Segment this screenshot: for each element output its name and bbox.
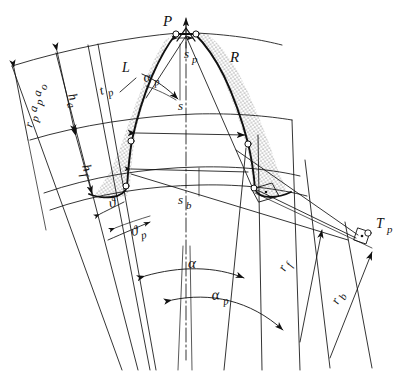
label-alpha-p-group: α p	[211, 285, 230, 308]
radial-line-right-3	[292, 120, 300, 370]
label-alpha-p-sub: p	[222, 294, 230, 307]
label-sp-sub: p	[191, 53, 198, 65]
tip-circle-arc	[12, 33, 178, 66]
dim-ha	[57, 51, 75, 133]
label-rb-group: r b	[327, 288, 349, 308]
label-ha: h	[65, 91, 81, 102]
label-ha-group: h a	[62, 91, 83, 110]
leader-tp	[120, 78, 136, 92]
diagram-canvas: P L R s p s s b h a h f t p α p r p a p …	[0, 0, 417, 376]
label-rp-ap-ao-group: r p a p a o	[21, 81, 49, 130]
tangent-point-Tp	[354, 228, 371, 244]
label-alpha-p: α	[211, 286, 222, 303]
label-s: s	[178, 98, 183, 113]
pressure-line-right	[131, 174, 348, 240]
radial-line-outer-right	[345, 222, 372, 368]
label-Tp: T	[376, 216, 385, 231]
gear-tooth-diagram: P L R s p s s b h a h f t p α p r p a p …	[0, 0, 417, 376]
radial-line-right-4	[305, 160, 330, 368]
label-tp-sub: p	[105, 85, 115, 99]
label-Tp-group: T p	[376, 216, 393, 235]
label-R: R	[229, 49, 239, 65]
label-hf: h	[79, 162, 95, 173]
label-sb: s	[178, 192, 183, 207]
label-sp: s	[184, 46, 189, 61]
tangent-line-Tp-2	[255, 189, 356, 238]
label-L: L	[121, 60, 130, 75]
label-ha-sub: a	[65, 101, 78, 110]
radial-line-right-1	[224, 148, 246, 370]
label-theta-p-sub: p	[139, 228, 148, 241]
label-Tp-sub: p	[386, 223, 393, 235]
label-ao-sub: o	[37, 82, 50, 91]
label-rf-group: r f	[274, 256, 296, 275]
label-rp-sub: p	[28, 114, 41, 124]
label-sp-group: s p	[184, 46, 198, 65]
label-alpha: α	[188, 255, 197, 271]
label-tp: t	[97, 82, 105, 98]
node-tip-left	[173, 31, 179, 37]
node-pitch-right	[245, 141, 251, 147]
label-hf-sub: f	[79, 172, 92, 180]
node-tip-right	[193, 31, 199, 37]
node-base-right	[251, 185, 257, 191]
label-sb-group: s b	[178, 192, 192, 211]
node-pitch-left	[128, 138, 134, 144]
node-base-left	[123, 183, 129, 189]
label-P: P	[162, 13, 172, 29]
radial-line-outer-left	[12, 66, 122, 370]
label-tp-group: t p	[97, 80, 115, 101]
dim-rf	[300, 230, 322, 342]
label-sb-sub: b	[186, 199, 192, 211]
label-theta-p: ϑ	[130, 223, 141, 239]
